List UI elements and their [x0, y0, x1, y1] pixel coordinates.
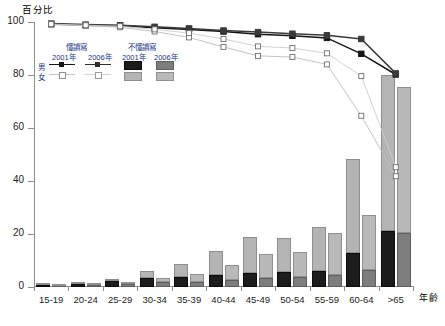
legend-row-female: 女 [38, 71, 45, 82]
legend-swatch-illiterate-2001-male [124, 61, 142, 70]
marker-literate_2006_female [256, 44, 261, 49]
legend-swatch-illiterate-2001-female [124, 72, 142, 81]
legend-col-2001-literate: 2001年 [52, 51, 76, 62]
marker-literate_2001_female [290, 55, 295, 60]
marker-literate_2006_male [290, 31, 295, 36]
y-tick-label: 80 [0, 68, 24, 79]
legend-swatch-literate-2001-male-marker [59, 62, 64, 67]
legend-swatch-literate-2006-male-marker [95, 62, 100, 67]
marker-literate_2001_female [324, 62, 329, 67]
y-axis-title: 百分比 [22, 2, 54, 16]
marker-literate_2006_male [221, 28, 226, 33]
marker-literate_2006_female [187, 31, 192, 36]
marker-literate_2001_female [359, 113, 364, 118]
marker-literate_2001_male [359, 51, 364, 56]
marker-literate_2006_female [290, 46, 295, 51]
marker-literate_2006_female [324, 51, 329, 56]
legend-swatch-illiterate-2006-female [156, 72, 174, 81]
legend-swatch-literate-2006-female-marker [95, 72, 102, 79]
legend-swatch-illiterate-2006-male [156, 61, 174, 70]
y-tick-label: 0 [0, 280, 24, 291]
legend-col-2006-literate: 2006年 [88, 51, 112, 62]
x-axis-title: 年齡 [419, 291, 438, 304]
marker-literate_2006_male [393, 71, 398, 76]
marker-literate_2006_female [118, 24, 123, 29]
marker-literate_2006_female [152, 27, 157, 32]
chart-root: 百分比 年齡 020406080100 15-1920-2425-2930-34… [0, 0, 445, 326]
marker-literate_2006_female [221, 37, 226, 42]
marker-literate_2006_female [49, 22, 54, 27]
marker-literate_2006_male [324, 33, 329, 38]
marker-literate_2006_male [359, 36, 364, 41]
y-tick-label: 20 [0, 227, 24, 238]
marker-literate_2006_female [83, 23, 88, 28]
x-tick [413, 286, 414, 291]
marker-literate_2006_female [359, 74, 364, 79]
legend-swatch-literate-2001-female-marker [59, 72, 66, 79]
marker-literate_2001_female [393, 174, 398, 179]
x-tick-label->65: >65 [373, 294, 419, 305]
marker-literate_2006_female [393, 165, 398, 170]
y-tick-label: 40 [0, 174, 24, 185]
y-tick-label: 60 [0, 121, 24, 132]
y-tick-label: 100 [0, 15, 24, 26]
marker-literate_2001_female [221, 44, 226, 49]
marker-literate_2006_male [255, 29, 260, 34]
marker-literate_2001_female [256, 53, 261, 58]
